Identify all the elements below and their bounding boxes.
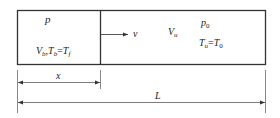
dimension-label-L: L [154,90,161,101]
burned-state-label: Vb,Tb=Tf [36,45,71,58]
velocity-label: v [133,28,138,39]
diagram-canvas: p Vb,Tb=Tf v Vu p0 Tu=T0 x L [0,0,280,118]
dimension-label-x: x [55,70,61,81]
unburned-temperature-label: Tu=T0 [199,37,223,50]
unburned-volume-label: Vu [168,26,178,39]
burned-pressure-label: p [44,13,51,25]
unburned-pressure-label: p0 [200,17,210,30]
